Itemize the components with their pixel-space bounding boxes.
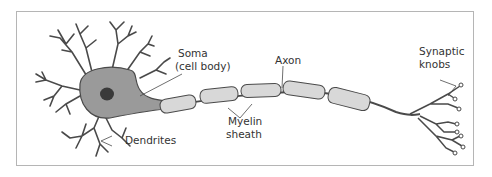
soma-label: Soma — [178, 47, 208, 60]
sheath-label: sheath — [226, 128, 262, 141]
nucleus — [100, 88, 114, 101]
knobs-label: knobs — [419, 58, 450, 71]
dendrites-label: Dendrites — [125, 134, 176, 147]
soma-sublabel: (cell body) — [175, 60, 231, 73]
axon-label: Axon — [275, 54, 301, 67]
myelin-sheaths — [159, 80, 371, 114]
synaptic-label: Synaptic — [419, 45, 464, 58]
neuron-illustration — [0, 0, 492, 177]
axon-terminals — [410, 86, 462, 152]
myelin-label: Myelin — [228, 115, 262, 128]
